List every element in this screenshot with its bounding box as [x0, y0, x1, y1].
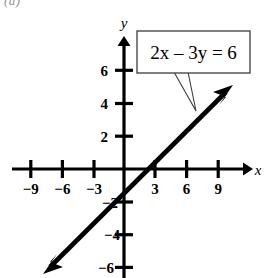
callout-leader-icon — [174, 72, 196, 111]
equation-text: 2x – 3y = 6 — [150, 42, 237, 63]
x-tick-label-neg9: −9 — [23, 181, 39, 197]
x-tick-label-neg3: −3 — [86, 181, 102, 197]
y-axis-arrow-icon — [118, 36, 131, 46]
plotted-line — [43, 85, 233, 274]
y-tick-label-6: 6 — [101, 63, 109, 79]
x-tick-label-9: 9 — [214, 181, 222, 197]
line-segment — [50, 92, 226, 267]
y-tick-label-4: 4 — [101, 96, 109, 112]
coordinate-plane-svg: x y −9 −6 −3 3 6 9 6 4 2 −2 −4 −6 2x – 3… — [0, 0, 278, 278]
y-tick-label-neg6: −6 — [98, 260, 115, 276]
x-tick-label-3: 3 — [151, 181, 159, 197]
x-tick-label-6: 6 — [183, 181, 191, 197]
y-tick-label-neg4: −4 — [104, 227, 121, 243]
x-axis-arrow-icon — [243, 163, 253, 176]
y-axis-label: y — [119, 15, 128, 31]
y-tick-label-2: 2 — [101, 129, 109, 145]
graph-figure: (d) x y — [0, 0, 278, 278]
x-axis-label: x — [254, 162, 262, 178]
x-tick-label-neg6: −6 — [54, 181, 71, 197]
